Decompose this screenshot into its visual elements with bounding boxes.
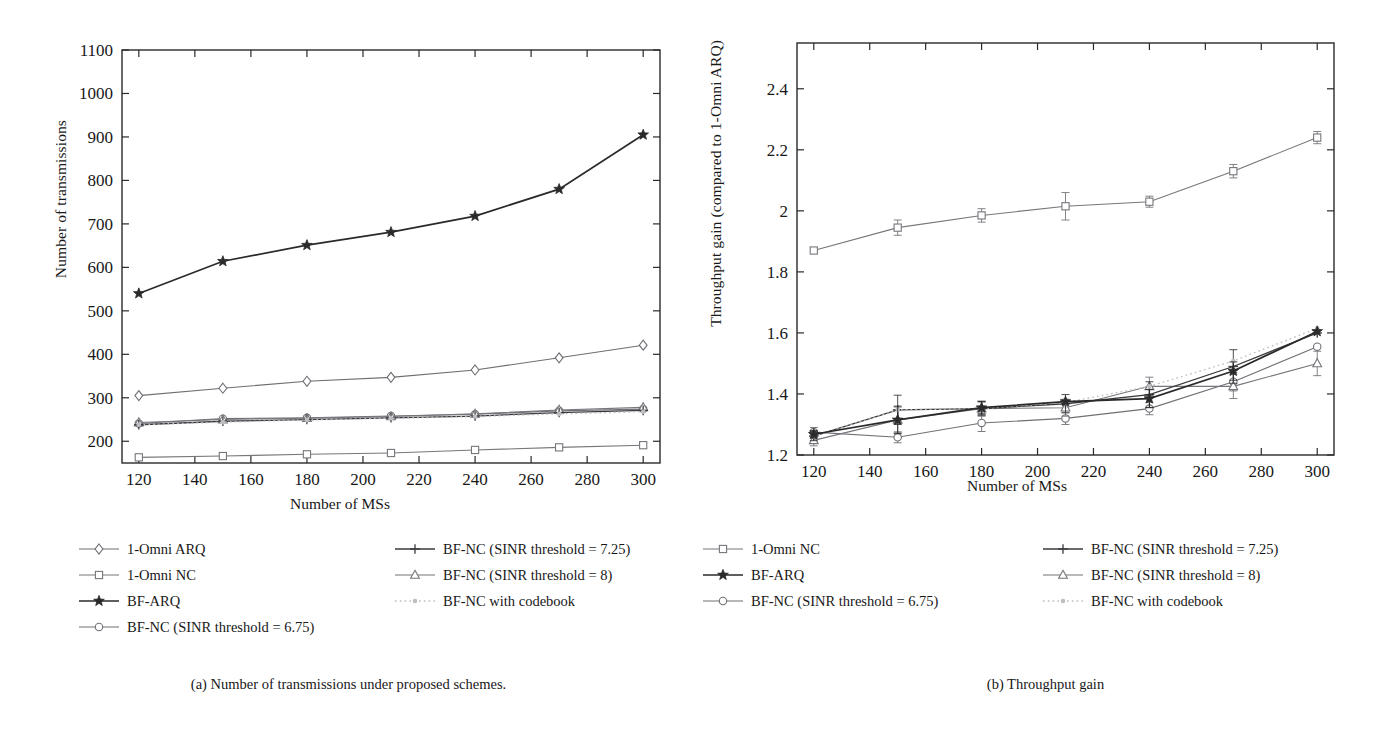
svg-text:240: 240 (462, 470, 488, 489)
legend-marker-circle-icon (78, 618, 120, 636)
series-1-omni-arq (135, 340, 647, 400)
svg-text:220: 220 (406, 470, 432, 489)
legend-item-bf-nc-sinr-threshold-8-[interactable]: BF-NC (SINR threshold = 8) (394, 562, 630, 588)
svg-text:1100: 1100 (80, 41, 113, 60)
legend-b: 1-Omni NCBF-ARQBF-NC (SINR threshold = 6… (702, 536, 1362, 646)
legend-item-bf-nc-with-codebook[interactable]: BF-NC with codebook (1042, 588, 1278, 614)
legend-marker-dot-icon (394, 592, 436, 610)
legend-marker-plus-icon (1042, 540, 1084, 558)
svg-text:700: 700 (88, 215, 114, 234)
x-axis-label-b: Number of MSs (857, 477, 1177, 495)
panel-b: 1201401601802002202402602803001.21.41.61… (697, 0, 1394, 735)
svg-text:260: 260 (518, 470, 544, 489)
legend-item-bf-nc-sinr-threshold-7-25-[interactable]: BF-NC (SINR threshold = 7.25) (1042, 536, 1278, 562)
legend-item-bf-nc-sinr-threshold-6-75-[interactable]: BF-NC (SINR threshold = 6.75) (78, 614, 314, 640)
svg-text:1000: 1000 (79, 84, 113, 103)
legend-item-bf-arq[interactable]: BF-ARQ (78, 588, 314, 614)
legend-label: BF-NC with codebook (1091, 594, 1223, 609)
svg-text:140: 140 (182, 470, 208, 489)
legend-marker-circle-icon (702, 592, 744, 610)
legend-label: BF-ARQ (127, 594, 180, 609)
svg-text:1.8: 1.8 (767, 263, 788, 282)
legend-label: BF-NC (SINR threshold = 6.75) (751, 594, 938, 609)
legend-marker-plus-icon (394, 540, 436, 558)
svg-text:800: 800 (88, 171, 114, 190)
legend-label: BF-NC (SINR threshold = 7.25) (1091, 542, 1278, 557)
svg-text:260: 260 (1193, 462, 1219, 481)
caption-b: (b) Throughput gain (697, 676, 1394, 693)
x-axis-label-a: Number of MSs (180, 495, 500, 513)
legend-label: 1-Omni NC (751, 542, 820, 557)
legend-label: BF-ARQ (751, 568, 804, 583)
caption-a: (a) Number of transmissions under propos… (0, 676, 697, 693)
chart-a: 1201401601802002202402602803002003004005… (0, 0, 697, 520)
legend-label: BF-NC (SINR threshold = 6.75) (127, 620, 314, 635)
svg-text:1.2: 1.2 (767, 446, 788, 465)
legend-item-1-omni-nc[interactable]: 1-Omni NC (78, 562, 314, 588)
chart-b: 1201401601802002202402602803001.21.41.61… (697, 0, 1394, 520)
svg-text:2.2: 2.2 (767, 141, 788, 160)
svg-text:160: 160 (238, 470, 264, 489)
svg-text:300: 300 (630, 470, 656, 489)
legend-item-1-omni-arq[interactable]: 1-Omni ARQ (78, 536, 314, 562)
svg-text:120: 120 (126, 470, 152, 489)
svg-text:300: 300 (88, 389, 114, 408)
svg-text:1.4: 1.4 (767, 385, 789, 404)
legend-marker-triangle-icon (394, 566, 436, 584)
svg-text:400: 400 (88, 345, 114, 364)
legend-marker-star-icon (78, 592, 120, 610)
svg-text:280: 280 (574, 470, 600, 489)
series-bf-arq (133, 129, 648, 298)
svg-text:280: 280 (1249, 462, 1275, 481)
svg-text:120: 120 (801, 462, 827, 481)
svg-text:200: 200 (350, 470, 376, 489)
svg-text:500: 500 (88, 302, 114, 321)
legend-item-1-omni-nc[interactable]: 1-Omni NC (702, 536, 938, 562)
series-1-omni-nc (810, 132, 1321, 255)
legend-item-bf-nc-sinr-threshold-8-[interactable]: BF-NC (SINR threshold = 8) (1042, 562, 1278, 588)
legend-item-bf-arq[interactable]: BF-ARQ (702, 562, 938, 588)
y-axis-label-a: Number of transmissions (52, 120, 70, 278)
legend-item-bf-nc-with-codebook[interactable]: BF-NC with codebook (394, 588, 630, 614)
svg-text:900: 900 (88, 128, 114, 147)
legend-marker-star-icon (702, 566, 744, 584)
legend-marker-dot-icon (1042, 592, 1084, 610)
y-axis-label-b: Throughput gain (compared to 1-Omni ARQ) (707, 40, 725, 327)
svg-text:1.6: 1.6 (767, 324, 788, 343)
legend-b-column-right: BF-NC (SINR threshold = 7.25)BF-NC (SINR… (1042, 536, 1278, 614)
legend-marker-triangle-icon (1042, 566, 1084, 584)
legend-label: 1-Omni NC (127, 568, 196, 583)
svg-text:180: 180 (294, 470, 320, 489)
svg-text:600: 600 (88, 258, 114, 277)
legend-label: BF-NC (SINR threshold = 8) (443, 568, 612, 583)
svg-text:300: 300 (1304, 462, 1330, 481)
svg-text:2: 2 (780, 202, 789, 221)
legend-marker-diamond-icon (78, 540, 120, 558)
legend-label: BF-NC with codebook (443, 594, 575, 609)
legend-label: 1-Omni ARQ (127, 542, 206, 557)
figure-two-panel: 1201401601802002202402602803002003004005… (0, 0, 1394, 735)
series-1-omni-nc (135, 442, 647, 461)
legend-marker-square-icon (702, 540, 744, 558)
svg-text:200: 200 (88, 432, 114, 451)
legend-a-column-right: BF-NC (SINR threshold = 7.25)BF-NC (SINR… (394, 536, 630, 614)
plot-a-wrap: 1201401601802002202402602803002003004005… (0, 0, 697, 520)
series-bf-nc-sinr-threshold-6-75- (810, 343, 1321, 443)
legend-a: 1-Omni ARQ1-Omni NCBF-ARQBF-NC (SINR thr… (78, 536, 678, 656)
legend-label: BF-NC (SINR threshold = 8) (1091, 568, 1260, 583)
legend-a-column-left: 1-Omni ARQ1-Omni NCBF-ARQBF-NC (SINR thr… (78, 536, 314, 640)
panel-a: 1201401601802002202402602803002003004005… (0, 0, 697, 735)
svg-text:2.4: 2.4 (767, 80, 789, 99)
legend-item-bf-nc-sinr-threshold-7-25-[interactable]: BF-NC (SINR threshold = 7.25) (394, 536, 630, 562)
legend-marker-square-icon (78, 566, 120, 584)
plot-b-wrap: 1201401601802002202402602803001.21.41.61… (697, 0, 1394, 520)
legend-b-column-left: 1-Omni NCBF-ARQBF-NC (SINR threshold = 6… (702, 536, 938, 614)
legend-label: BF-NC (SINR threshold = 7.25) (443, 542, 630, 557)
legend-item-bf-nc-sinr-threshold-6-75-[interactable]: BF-NC (SINR threshold = 6.75) (702, 588, 938, 614)
